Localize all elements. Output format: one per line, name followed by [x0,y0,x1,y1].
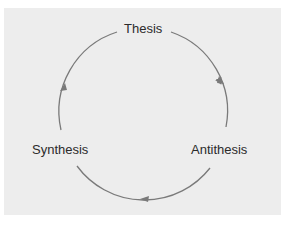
arrow-synthesis-to-thesis [59,32,117,130]
node-antithesis: Antithesis [191,142,247,157]
node-synthesis: Synthesis [32,142,88,157]
node-thesis: Thesis [124,21,162,36]
arrowhead-icon [140,196,149,202]
arrow-antithesis-to-synthesis [77,166,210,200]
